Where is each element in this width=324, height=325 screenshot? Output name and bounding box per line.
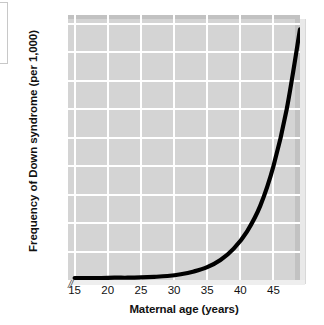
x-tick-label: 15: [62, 284, 88, 296]
x-tick-label: 45: [260, 284, 286, 296]
x-tick-label: 25: [128, 284, 154, 296]
x-tick-label: 40: [227, 284, 253, 296]
plot-area: [68, 15, 300, 280]
edge-decoration-box: [0, 2, 8, 64]
x-tick-label: 30: [161, 284, 187, 296]
data-curve: [68, 15, 300, 280]
figure-container: Frequency of Down syndrome (per 1,000) 1…: [0, 0, 324, 325]
x-tick-label: 35: [194, 284, 220, 296]
x-tick-label: 20: [95, 284, 121, 296]
y-axis-title: Frequency of Down syndrome (per 1,000): [27, 16, 39, 266]
axis-break-symbol: //: [68, 278, 72, 290]
x-axis-title: Maternal age (years): [68, 303, 300, 315]
panel-bevel-right: [300, 19, 306, 284]
